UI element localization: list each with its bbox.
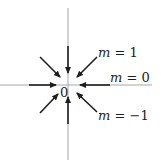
label-var: m — [110, 70, 122, 85]
phase-portrait-diagram: 0 m = 1 m = 0 m = −1 — [0, 0, 162, 168]
label-var: m — [98, 108, 110, 123]
arrow-lower-right — [77, 93, 97, 112]
arrow-lower-left — [40, 94, 58, 113]
label-eq: = −1 — [110, 108, 148, 123]
label-var: m — [98, 45, 110, 60]
label-m-equals-minus-1: m = −1 — [98, 108, 149, 123]
arrow-upper-left — [40, 57, 60, 77]
origin-label: 0 — [60, 85, 68, 100]
label-eq: = 0 — [122, 70, 149, 85]
label-m-equals-0: m = 0 — [110, 70, 150, 85]
label-eq: = 1 — [110, 45, 137, 60]
label-m-equals-1: m = 1 — [98, 45, 138, 60]
arrow-upper-right — [77, 57, 97, 77]
